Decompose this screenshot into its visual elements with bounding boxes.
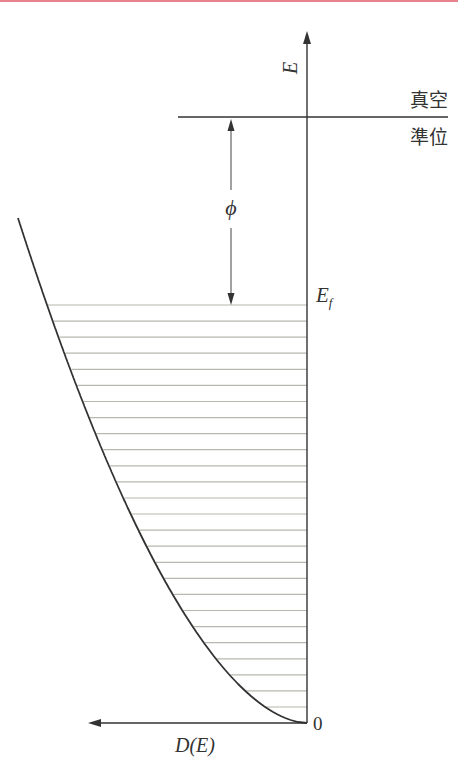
- work-function-arrow-down-icon: [228, 293, 235, 305]
- dos-axis-label: D(E): [174, 734, 215, 757]
- dos-diagram: E 真空 準位 ϕ Ef 0 D(E): [0, 0, 472, 778]
- dos-axis-arrow-icon: [88, 719, 101, 727]
- fermi-level-label: Ef: [315, 283, 335, 310]
- occupied-states-hatching: [48, 305, 307, 707]
- work-function-label: ϕ: [225, 195, 236, 220]
- fermi-level-label-main: E: [315, 283, 329, 307]
- vacuum-level-label-bottom: 準位: [410, 126, 448, 148]
- work-function-arrow-up-icon: [228, 119, 235, 131]
- fermi-level-label-subscript: f: [329, 295, 335, 310]
- energy-axis-label: E: [279, 62, 301, 75]
- dos-curve: [18, 218, 307, 723]
- energy-axis-arrow-icon: [303, 31, 311, 44]
- origin-label: 0: [313, 713, 323, 734]
- vacuum-level-label-top: 真空: [410, 89, 448, 111]
